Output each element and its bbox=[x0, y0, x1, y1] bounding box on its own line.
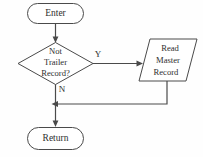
arrowhead-decision-yes bbox=[137, 61, 144, 67]
node-decision-line2: Trailer bbox=[44, 57, 67, 67]
node-read-line3: Record bbox=[154, 67, 180, 77]
node-decision-line3: Record? bbox=[41, 68, 70, 78]
node-enter-label: Enter bbox=[45, 8, 66, 18]
flowchart-canvas: Enter Not Trailer Record? Y Read Master … bbox=[0, 0, 203, 157]
edge-read-feedback bbox=[56, 81, 167, 104]
flowchart-svg: Enter Not Trailer Record? Y Read Master … bbox=[0, 0, 203, 157]
node-read-line2: Master bbox=[156, 55, 180, 65]
edge-label-yes: Y bbox=[95, 49, 102, 59]
arrowhead-read-feedback bbox=[52, 101, 59, 107]
node-return-label: Return bbox=[43, 133, 69, 143]
arrowhead-decision-no bbox=[53, 121, 59, 128]
node-decision-line1: Not bbox=[49, 46, 63, 56]
edge-label-no: N bbox=[59, 84, 66, 94]
node-read-line1: Read bbox=[161, 43, 179, 53]
